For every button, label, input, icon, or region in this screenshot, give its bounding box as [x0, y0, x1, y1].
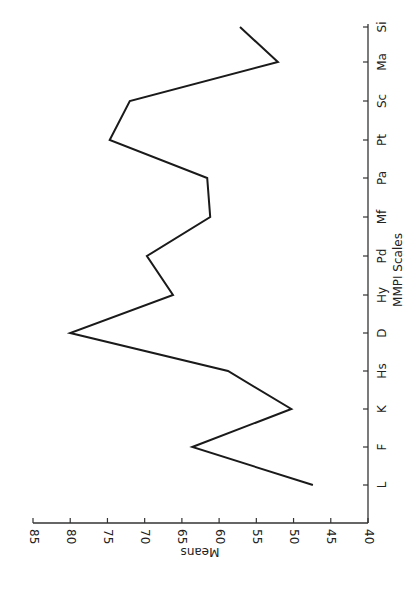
- scale-tick-label-f: F: [375, 443, 389, 450]
- mmpi-line-chart: 40455055606570758085 LFKHsDHyPdMfPaPtScM…: [0, 0, 408, 592]
- means-axis-ticks: 40455055606570758085: [27, 518, 376, 544]
- means-tick-label: 85: [27, 529, 41, 544]
- scale-tick-label-ma: Ma: [375, 53, 389, 71]
- means-tick-label: 50: [287, 529, 301, 544]
- axis-labels: Means MMPI Scales: [181, 233, 405, 559]
- chart-canvas: 40455055606570758085 LFKHsDHyPdMfPaPtScM…: [0, 0, 408, 592]
- scale-tick-label-sc: Sc: [375, 94, 389, 108]
- means-tick-label: 75: [101, 529, 115, 544]
- scale-tick-label-l: L: [375, 481, 389, 488]
- scale-tick-label-k: K: [375, 404, 389, 413]
- scale-tick-label-pd: Pd: [375, 249, 389, 264]
- scale-tick-label-hy: Hy: [375, 287, 389, 303]
- scale-tick-label-mf: Mf: [375, 209, 389, 224]
- series-line: [70, 27, 313, 485]
- scale-tick-label-d: D: [375, 328, 389, 337]
- means-tick-label: 40: [362, 529, 376, 544]
- chart-axes: [33, 24, 368, 523]
- scales-axis-label: MMPI Scales: [391, 233, 405, 307]
- means-tick-label: 55: [250, 529, 264, 544]
- means-tick-label: 65: [175, 529, 189, 544]
- means-tick-label: 45: [324, 529, 338, 544]
- means-line: [70, 27, 313, 485]
- means-tick-label: 60: [213, 529, 227, 544]
- scales-axis-ticks: LFKHsDHyPdMfPaPtScMaSi: [363, 22, 389, 489]
- means-tick-label: 70: [138, 529, 152, 544]
- means-axis-label: Means: [181, 545, 220, 559]
- means-tick-label: 80: [64, 529, 78, 544]
- scale-tick-label-si: Si: [375, 22, 389, 33]
- scale-tick-label-pa: Pa: [375, 171, 389, 185]
- scale-tick-label-pt: Pt: [375, 134, 389, 146]
- scale-tick-label-hs: Hs: [375, 363, 389, 378]
